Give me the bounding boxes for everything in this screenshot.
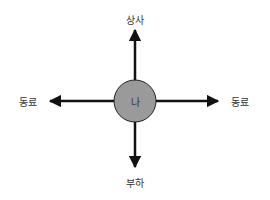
node-label-superior: 상사 (126, 12, 144, 27)
node-label-subordinate: 부하 (126, 175, 144, 190)
node-label-peer-right: 동료 (231, 94, 249, 109)
node-label-peer-left: 동료 (19, 94, 37, 109)
center-node-label: 나 (131, 94, 140, 109)
